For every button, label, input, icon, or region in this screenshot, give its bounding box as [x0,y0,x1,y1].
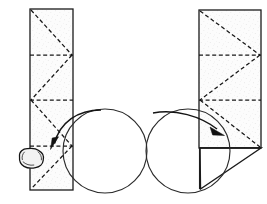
folding-diagram [0,0,267,204]
right-panel [199,10,261,148]
pebble-blob-group [19,148,43,168]
